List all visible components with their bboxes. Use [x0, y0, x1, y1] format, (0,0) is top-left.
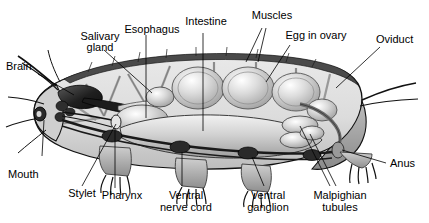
label-ventral-ganglion-line2: ganglion — [247, 201, 289, 213]
label-brain: Brain — [6, 60, 32, 72]
label-muscles: Muscles — [252, 9, 293, 21]
label-anus: Anus — [390, 157, 416, 169]
tardigrade-anatomy-diagram: Brain Salivary gland Esophagus Intestine… — [0, 0, 429, 223]
label-esophagus: Esophagus — [124, 23, 180, 35]
label-pharynx: Pharynx — [102, 189, 143, 201]
label-ventral-nerve-cord-line1: Ventral — [169, 189, 203, 201]
label-egg-in-ovary: Egg in ovary — [285, 29, 347, 41]
label-ventral-nerve-cord-line2: nerve cord — [160, 201, 212, 213]
label-mouth: Mouth — [8, 168, 39, 180]
label-ventral-ganglion-line1: Ventral — [251, 189, 285, 201]
mouth-organ — [34, 107, 46, 121]
label-oviduct: Oviduct — [376, 33, 413, 45]
leader-oviduct — [336, 47, 380, 88]
label-malpighian-tubules-line2: tubules — [322, 201, 358, 213]
leg-4 — [340, 152, 376, 184]
label-salivary-gland-line2: gland — [87, 41, 114, 53]
label-intestine: Intestine — [185, 15, 227, 27]
posterior-bristles — [360, 83, 418, 106]
label-malpighian-tubules-line1: Malpighian — [313, 189, 366, 201]
label-stylet: Stylet — [68, 187, 96, 199]
tardigrade-body — [6, 47, 418, 208]
